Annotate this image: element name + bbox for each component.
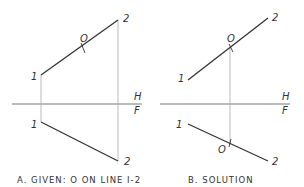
label-h: H — [134, 91, 142, 102]
label-1-top: 1 — [178, 73, 184, 84]
label-h: H — [282, 91, 290, 102]
label-f: F — [134, 105, 140, 116]
label-1-bottom: 1 — [31, 119, 37, 130]
line-12-front-view — [188, 124, 268, 161]
label-2-bottom: 2 — [272, 156, 278, 167]
label-2-bottom: 2 — [124, 156, 130, 167]
line-12-front-view — [41, 122, 118, 161]
line-12-top-view — [188, 18, 268, 80]
label-f: F — [282, 105, 288, 116]
label-1-top: 1 — [31, 71, 37, 82]
label-o-top: O — [227, 33, 235, 44]
label-o-bottom: O — [218, 144, 226, 155]
panel-b: 1 2 O 1 2 O H F — [160, 12, 290, 167]
label-o-top: O — [80, 33, 88, 44]
diagram-canvas: 1 2 O 1 2 H F 1 2 O 1 2 O H F A. GIVEN: … — [0, 0, 304, 187]
caption-a: A. GIVEN: O ON LINE I-2 — [17, 175, 141, 185]
label-2-top: 2 — [123, 13, 129, 24]
line-12-top-view — [41, 20, 118, 75]
label-2-top: 2 — [272, 12, 278, 23]
caption-b: B. SOLUTION — [188, 175, 254, 185]
label-1-bottom: 1 — [176, 119, 182, 130]
panel-a: 1 2 O 1 2 H F — [12, 13, 142, 167]
